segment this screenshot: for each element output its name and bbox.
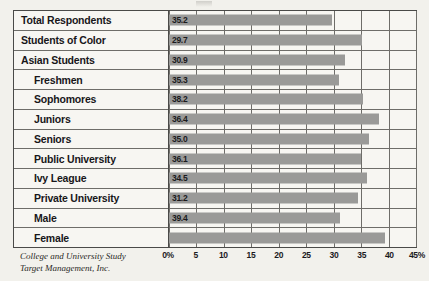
bar bbox=[169, 133, 369, 144]
category-label: Total Respondents bbox=[14, 11, 168, 31]
bar-value-label: 38.2 bbox=[172, 94, 187, 104]
bar-value-label: 36.1 bbox=[172, 154, 187, 164]
x-axis-tick-label: 45% bbox=[409, 250, 425, 260]
credit-line-1: College and University Study bbox=[20, 250, 126, 262]
bar-row: 36.4 bbox=[169, 110, 416, 130]
category-label: Freshmen bbox=[14, 70, 168, 90]
category-label: Seniors bbox=[14, 130, 168, 150]
x-axis-tick-label: 10 bbox=[219, 250, 228, 260]
bar-row: 34.5 bbox=[169, 169, 416, 189]
x-axis-tick-label: 40 bbox=[385, 250, 394, 260]
bar bbox=[169, 212, 340, 223]
category-label: Asian Students bbox=[14, 51, 168, 71]
category-label: Students of Color bbox=[14, 31, 168, 51]
bar-value-label: 30.9 bbox=[172, 55, 187, 65]
bar-value-label: 29.7 bbox=[172, 35, 187, 45]
bar bbox=[169, 232, 385, 243]
bar-value-label: 35.3 bbox=[172, 75, 187, 85]
source-credit: College and University Study Target Mana… bbox=[20, 250, 126, 274]
x-axis-tick-label: 15 bbox=[247, 250, 256, 260]
bar-value-label: 35.2 bbox=[172, 15, 187, 25]
bar-value-label: 35.0 bbox=[172, 134, 187, 144]
bar bbox=[169, 15, 332, 26]
x-axis-tick-label: 5 bbox=[193, 250, 197, 260]
category-label: Sophomores bbox=[14, 90, 168, 110]
bar-row bbox=[169, 228, 416, 247]
bar-row: 38.2 bbox=[169, 90, 416, 110]
category-label: Juniors bbox=[14, 110, 168, 130]
bar bbox=[169, 35, 362, 46]
bar-rows: 35.229.730.935.338.236.435.036.134.531.2… bbox=[169, 11, 416, 247]
bar bbox=[169, 173, 367, 184]
x-axis: 0%51015202530354045% bbox=[168, 250, 417, 264]
bar-row: 35.2 bbox=[169, 11, 416, 31]
x-axis-tick-label: 0% bbox=[162, 250, 174, 260]
bar bbox=[169, 54, 345, 65]
bar-row: 39.4 bbox=[169, 209, 416, 229]
bar bbox=[169, 94, 363, 105]
bar-row: 35.0 bbox=[169, 130, 416, 150]
x-axis-tick-label: 25 bbox=[302, 250, 311, 260]
bar-row: 35.3 bbox=[169, 70, 416, 90]
bar-row: 31.2 bbox=[169, 189, 416, 209]
bar-row: 29.7 bbox=[169, 31, 416, 51]
x-axis-tick-label: 35 bbox=[357, 250, 366, 260]
bar-row: 30.9 bbox=[169, 51, 416, 71]
plot-area: 35.229.730.935.338.236.435.036.134.531.2… bbox=[169, 11, 416, 247]
credit-line-2: Target Management, Inc. bbox=[20, 262, 126, 274]
bar bbox=[169, 153, 361, 164]
category-label: Private University bbox=[14, 189, 168, 209]
bar bbox=[169, 74, 339, 85]
bar-chart: Total RespondentsStudents of ColorAsian … bbox=[13, 10, 417, 248]
x-axis-tick-label: 20 bbox=[274, 250, 283, 260]
category-label: Male bbox=[14, 209, 168, 229]
bar-value-label: 31.2 bbox=[172, 193, 187, 203]
bar bbox=[169, 114, 379, 125]
category-label: Public University bbox=[14, 149, 168, 169]
bar-value-label: 34.5 bbox=[172, 173, 187, 183]
bar bbox=[169, 193, 358, 204]
cropped-title-artifact bbox=[196, 1, 212, 7]
bar-value-label: 39.4 bbox=[172, 213, 187, 223]
category-label: Ivy League bbox=[14, 169, 168, 189]
category-label: Female bbox=[14, 228, 168, 247]
x-axis-tick-label: 30 bbox=[330, 250, 339, 260]
bar-row: 36.1 bbox=[169, 149, 416, 169]
bar-value-label: 36.4 bbox=[172, 114, 187, 124]
gridline bbox=[416, 11, 417, 247]
category-label-panel: Total RespondentsStudents of ColorAsian … bbox=[14, 11, 169, 247]
